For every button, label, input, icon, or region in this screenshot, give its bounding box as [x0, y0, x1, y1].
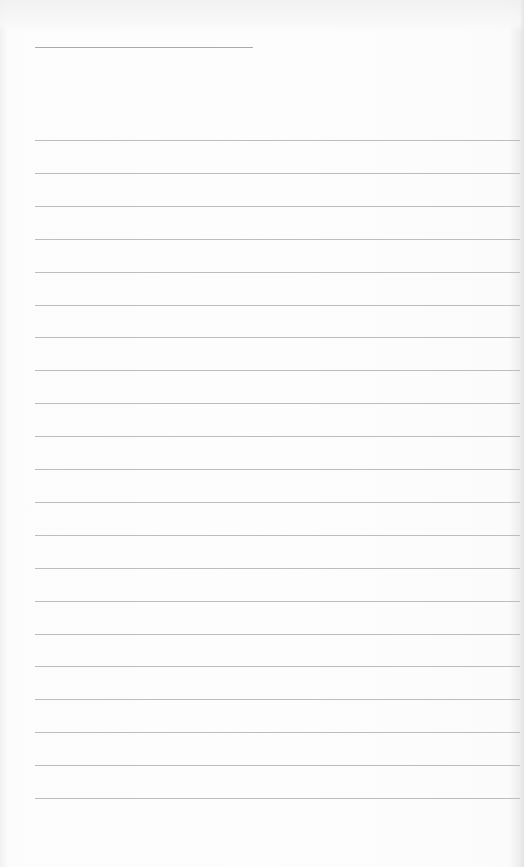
- ruled-line: [35, 601, 520, 602]
- ruled-line: [35, 239, 520, 240]
- ruled-line: [35, 403, 520, 404]
- ruled-line: [35, 140, 520, 141]
- ruled-line: [35, 469, 520, 470]
- ruled-line: [35, 337, 520, 338]
- ruled-line: [35, 666, 520, 667]
- ruled-line: [35, 502, 520, 503]
- ruled-line: [35, 634, 520, 635]
- ruled-line: [35, 699, 520, 700]
- ruled-line: [35, 765, 520, 766]
- ruled-line: [35, 206, 520, 207]
- ruled-line: [35, 732, 520, 733]
- ruled-line: [35, 272, 520, 273]
- page-edge-shadow: [520, 0, 524, 867]
- header-bleed-through: [0, 0, 524, 30]
- ruled-line: [35, 305, 520, 306]
- ruled-line: [35, 535, 520, 536]
- name-line: [35, 47, 253, 48]
- ruled-line: [35, 370, 520, 371]
- ruled-line: [35, 173, 520, 174]
- ruled-line: [35, 568, 520, 569]
- ruled-line: [35, 436, 520, 437]
- lined-paper-page: [0, 0, 524, 867]
- header-text: [8, 3, 518, 27]
- ruled-line: [35, 798, 520, 799]
